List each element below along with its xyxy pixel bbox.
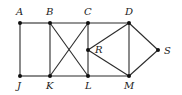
node-label-c: C xyxy=(84,6,92,17)
node-label-d: D xyxy=(124,6,133,17)
edge-m-s xyxy=(129,50,158,76)
node-k xyxy=(48,74,52,78)
node-b xyxy=(48,21,52,25)
node-d xyxy=(127,21,131,25)
node-c xyxy=(86,21,90,25)
node-j xyxy=(18,74,22,78)
node-m xyxy=(127,74,131,78)
node-label-a: A xyxy=(15,6,23,17)
node-label-k: K xyxy=(45,80,54,91)
graph-diagram: ABCDRSJKLM xyxy=(0,0,182,95)
node-l xyxy=(86,74,90,78)
node-label-b: B xyxy=(45,6,53,17)
labels-layer: ABCDRSJKLM xyxy=(15,6,171,91)
node-label-l: L xyxy=(84,80,92,91)
node-a xyxy=(18,21,22,25)
node-label-r: R xyxy=(94,44,103,55)
node-label-j: J xyxy=(15,80,22,91)
node-label-s: S xyxy=(164,45,171,56)
node-r xyxy=(86,48,90,52)
node-label-m: M xyxy=(123,80,135,91)
node-s xyxy=(156,48,160,52)
nodes-layer xyxy=(18,21,160,78)
edge-d-s xyxy=(129,23,158,50)
